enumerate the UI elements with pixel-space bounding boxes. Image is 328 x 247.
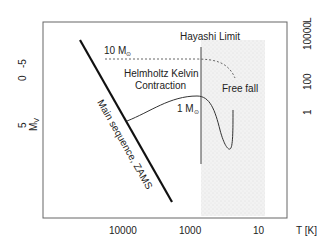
hayashi-label: Hayashi Limit: [180, 31, 240, 42]
y-left-tick: 0: [17, 75, 28, 81]
y-left-label: MV: [28, 118, 40, 131]
y-right-tick: 100: [302, 73, 313, 90]
y-right-label: L: [302, 17, 313, 23]
x-tick: 10: [253, 225, 265, 236]
y-right-tick: 1: [302, 109, 313, 115]
hk-label-2: Contraction: [135, 80, 186, 91]
m10-label: 10 M⊙: [104, 45, 131, 57]
y-left-tick: 5: [17, 122, 28, 128]
x-tick: 1000: [179, 225, 202, 236]
main-sequence-label: Main sequence, ZAMS: [95, 98, 155, 192]
main-sequence-line: [80, 40, 172, 202]
x-label: T [K]: [296, 225, 317, 236]
hk-label: Helmholtz Kelvin: [124, 68, 198, 79]
m1-label: 1 M⊙: [177, 103, 199, 115]
y-left-tick: -5: [17, 59, 28, 68]
hr-diagram: -5 0 5 MV 10000 L 100 1 10000 1000 10 T …: [0, 0, 328, 247]
free-fall-label: Free fall: [222, 83, 258, 94]
y-right-tick: 10000: [302, 22, 313, 50]
x-tick: 10000: [109, 225, 137, 236]
